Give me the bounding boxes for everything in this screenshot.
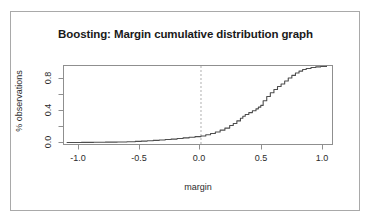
x-tick-label: 0.5 bbox=[241, 153, 281, 163]
x-tick-label: -0.5 bbox=[119, 153, 159, 163]
figure-root: Boosting: Margin cumulative distribution… bbox=[0, 0, 371, 223]
y-tick-label: 0.8 bbox=[43, 65, 53, 91]
x-axis-label: margin bbox=[63, 182, 333, 192]
x-tick-label: 1.0 bbox=[302, 153, 342, 163]
cdf-curve bbox=[67, 66, 326, 142]
y-axis-ticks bbox=[59, 79, 64, 143]
x-tick-label: -1.0 bbox=[58, 153, 98, 163]
y-axis-label: % observations bbox=[14, 61, 24, 141]
x-axis-ticks bbox=[79, 145, 323, 150]
x-tick-label: 0.0 bbox=[179, 153, 219, 163]
y-tick-label: 0.0 bbox=[43, 129, 53, 155]
y-tick-label: 0.4 bbox=[43, 97, 53, 123]
